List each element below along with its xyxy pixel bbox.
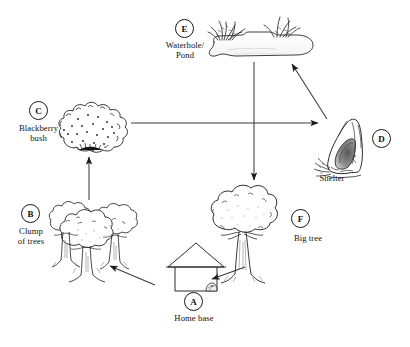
node-badge-A[interactable]: A [184, 292, 203, 311]
node-badge-B[interactable]: B [21, 204, 40, 223]
hut-icon [166, 243, 226, 291]
shelter-cave-icon [314, 119, 362, 177]
node-label-F: Big tree [277, 233, 339, 243]
node-label-B: Clump of trees [0, 226, 62, 246]
diagram-canvas: E C D B F A Waterhole/ Pond Blackberry b… [0, 0, 410, 347]
clump-of-trees-icon [49, 202, 137, 282]
node-badge-F[interactable]: F [291, 209, 310, 228]
node-label-A: Home base [155, 313, 233, 323]
node-badge-C[interactable]: C [29, 101, 48, 120]
node-badge-D[interactable]: D [372, 129, 391, 148]
edge-layer [89, 62, 327, 285]
node-label-C: Blackberry bush [0, 123, 77, 143]
node-label-E: Waterhole/ Pond [146, 40, 224, 60]
node-badge-E[interactable]: E [175, 19, 194, 38]
big-tree-icon [211, 185, 277, 283]
node-label-D: Shelter [301, 173, 363, 183]
edge-A-to-B [110, 266, 155, 285]
edge-D-to-E [292, 64, 327, 119]
